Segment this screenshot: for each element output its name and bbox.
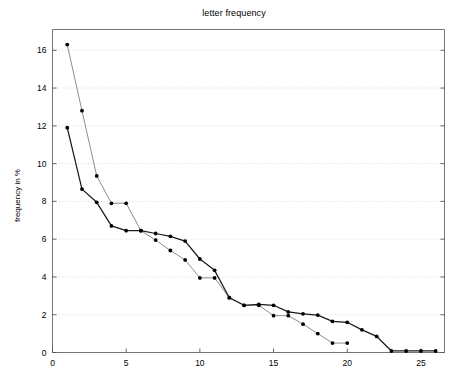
data-point [227, 296, 231, 300]
data-point [316, 332, 320, 336]
data-point [434, 349, 438, 353]
y-tick-label: 14 [37, 83, 47, 93]
data-point [301, 322, 305, 326]
data-point [419, 349, 423, 353]
gridlines [53, 50, 445, 314]
data-point [331, 319, 335, 323]
y-tick-label: 4 [42, 272, 47, 282]
axis-lines [53, 30, 445, 353]
data-point [65, 126, 69, 130]
series-1 [65, 43, 349, 345]
data-point [272, 314, 276, 318]
data-point [286, 314, 290, 318]
data-point [110, 224, 114, 228]
data-point [95, 174, 99, 178]
y-tick-label: 2 [42, 310, 47, 320]
data-point [154, 232, 158, 236]
y-tick-label: 8 [42, 196, 47, 206]
data-point [375, 335, 379, 339]
data-point [124, 229, 128, 233]
data-point [168, 249, 172, 253]
data-point [213, 276, 217, 280]
data-point [198, 276, 202, 280]
data-point [345, 320, 349, 324]
data-point [360, 328, 364, 332]
x-tick-label: 20 [343, 358, 353, 368]
plot-area: 02468101214160510152025 [0, 0, 468, 383]
data-point [139, 229, 143, 233]
y-tick-label: 10 [37, 159, 47, 169]
axis-tick-labels: 02468101214160510152025 [37, 45, 426, 367]
x-tick-label: 0 [50, 358, 55, 368]
data-point [404, 349, 408, 353]
y-tick-label: 0 [42, 348, 47, 358]
data-point [272, 303, 276, 307]
x-tick-label: 5 [124, 358, 129, 368]
data-point [257, 302, 261, 306]
data-point [345, 341, 349, 345]
x-tick-label: 15 [269, 358, 279, 368]
data-point [65, 43, 69, 47]
data-point [198, 257, 202, 261]
data-point [301, 312, 305, 316]
data-point [331, 341, 335, 345]
data-point [154, 238, 158, 242]
data-point [213, 268, 217, 272]
x-tick-label: 25 [416, 358, 426, 368]
data-series-layer [65, 43, 437, 353]
data-point [286, 310, 290, 314]
data-point [183, 239, 187, 243]
data-point [124, 201, 128, 205]
y-tick-label: 16 [37, 45, 47, 55]
x-tick-label: 10 [195, 358, 205, 368]
data-point [316, 313, 320, 317]
data-point [80, 187, 84, 191]
data-point [110, 201, 114, 205]
y-tick-label: 12 [37, 121, 47, 131]
data-point [183, 258, 187, 262]
data-point [390, 349, 394, 353]
y-tick-label: 6 [42, 234, 47, 244]
data-point [168, 234, 172, 238]
series-line [67, 45, 347, 343]
data-point [80, 109, 84, 113]
data-point [242, 303, 246, 307]
chart-figure: letter frequency frequency in % 02468101… [0, 0, 468, 383]
data-point [95, 200, 99, 204]
